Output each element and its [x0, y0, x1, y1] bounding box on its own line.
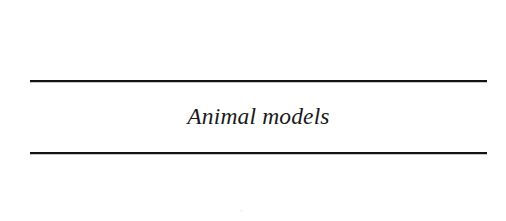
heading-rule-bottom — [30, 152, 487, 154]
section-heading-block: Animal models — [30, 82, 487, 152]
scan-artifact-speck — [240, 209, 243, 212]
page-title: Animal models — [187, 105, 329, 129]
document-page: Animal models — [0, 0, 506, 221]
